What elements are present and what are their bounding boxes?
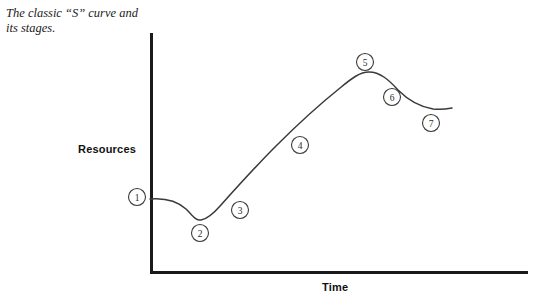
stage-marker-2: 2 [192, 225, 209, 242]
stage-marker-2-label: 2 [198, 229, 203, 239]
stage-marker-3: 3 [232, 202, 249, 219]
stage-marker-1-label: 1 [135, 193, 140, 203]
stage-marker-5-label: 5 [363, 58, 368, 68]
stage-marker-7-label: 7 [429, 119, 434, 129]
stage-marker-1: 1 [129, 189, 146, 206]
stage-marker-5: 5 [357, 54, 374, 71]
stage-marker-3-label: 3 [238, 206, 243, 216]
stage-marker-6-label: 6 [390, 93, 395, 103]
stage-marker-4-label: 4 [298, 141, 303, 151]
s-curve-figure: The classic “S” curve and its stages. Re… [0, 0, 546, 304]
stage-marker-4: 4 [292, 137, 309, 154]
stage-markers: 1 2 3 4 5 6 [129, 54, 440, 242]
stage-marker-6: 6 [384, 89, 401, 106]
stage-marker-7: 7 [423, 115, 440, 132]
chart-plot-area: 1 2 3 4 5 6 [0, 0, 546, 304]
